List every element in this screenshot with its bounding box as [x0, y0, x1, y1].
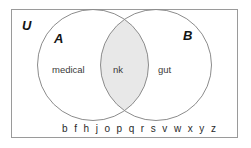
- set-b-only-region-label: gut: [158, 65, 171, 75]
- set-b-label: B: [183, 29, 192, 42]
- outside-elements-label: b f h j o p q r s v w x y z: [62, 124, 218, 134]
- set-a-label: A: [54, 32, 63, 45]
- intersection-region-label: nk: [113, 65, 123, 75]
- set-a-only-region-label: medical: [52, 65, 85, 75]
- universal-set-label: U: [22, 19, 31, 32]
- venn-diagram-figure: U A B medical nk gut b f h j o p q r s v…: [0, 0, 251, 148]
